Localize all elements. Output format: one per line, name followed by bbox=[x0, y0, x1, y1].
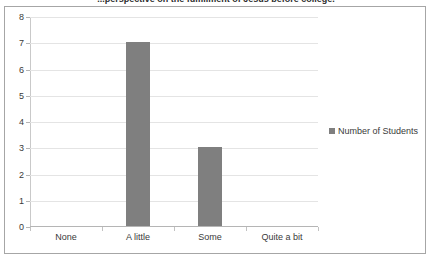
gridline bbox=[30, 122, 318, 123]
x-axis-tick-mark bbox=[102, 227, 103, 231]
square-marker-icon bbox=[329, 128, 335, 134]
chart-legend: Number of Students bbox=[329, 126, 418, 136]
y-axis-tick-mark bbox=[26, 175, 30, 176]
x-axis-tick-mark bbox=[174, 227, 175, 231]
y-axis-tick-mark bbox=[26, 148, 30, 149]
y-axis-tick-label: 2 bbox=[19, 170, 24, 180]
gridline bbox=[30, 148, 318, 149]
gridline bbox=[30, 96, 318, 97]
gridline bbox=[30, 17, 318, 18]
x-axis-tick-mark bbox=[318, 227, 319, 231]
y-axis-tick-label: 1 bbox=[19, 196, 24, 206]
x-axis-tick-mark bbox=[30, 227, 31, 231]
y-axis-tick-label: 7 bbox=[19, 38, 24, 48]
x-axis-category-label: A little bbox=[126, 232, 150, 242]
y-axis-tick-mark bbox=[26, 122, 30, 123]
y-axis-tick-label: 8 bbox=[19, 12, 24, 22]
plot-inner: 012345678 bbox=[30, 17, 318, 227]
y-axis-tick-mark bbox=[26, 17, 30, 18]
bar bbox=[126, 42, 150, 226]
chart-screenshot: ...perspective on the fulfillment of Jes… bbox=[0, 0, 432, 260]
gridline bbox=[30, 70, 318, 71]
y-axis-tick-mark bbox=[26, 201, 30, 202]
y-axis-tick-mark bbox=[26, 43, 30, 44]
y-axis-tick-label: 4 bbox=[19, 117, 24, 127]
y-axis-tick-mark bbox=[26, 70, 30, 71]
y-axis-tick-label: 6 bbox=[19, 65, 24, 75]
legend-item-label: Number of Students bbox=[338, 126, 418, 136]
x-axis-tick-mark bbox=[246, 227, 247, 231]
y-axis-tick-label: 3 bbox=[19, 143, 24, 153]
gridline bbox=[30, 175, 318, 176]
y-axis-tick-label: 0 bbox=[19, 222, 24, 232]
bar bbox=[198, 147, 222, 226]
x-axis-category-label: None bbox=[55, 232, 77, 242]
y-axis-tick-label: 5 bbox=[19, 91, 24, 101]
y-axis-tick-mark bbox=[26, 96, 30, 97]
gridline bbox=[30, 43, 318, 44]
x-axis-category-label: Some bbox=[198, 232, 222, 242]
plot-area: 012345678 bbox=[30, 17, 318, 227]
gridline bbox=[30, 201, 318, 202]
x-axis-category-label: Quite a bit bbox=[261, 232, 302, 242]
